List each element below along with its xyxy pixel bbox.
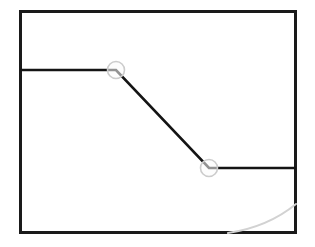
lower-knee-marker [201,160,218,177]
figure-canvas [0,0,315,247]
figure-svg [0,0,315,247]
upper-knee-marker [108,62,125,79]
diagram-frame [21,12,296,233]
